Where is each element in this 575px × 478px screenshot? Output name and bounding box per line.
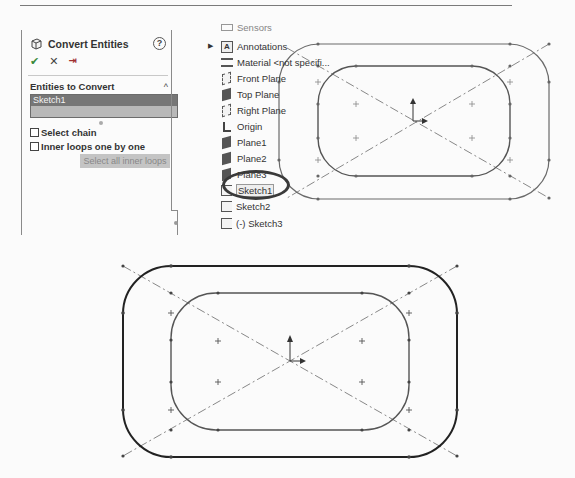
bottom-sketch-result bbox=[0, 0, 575, 478]
